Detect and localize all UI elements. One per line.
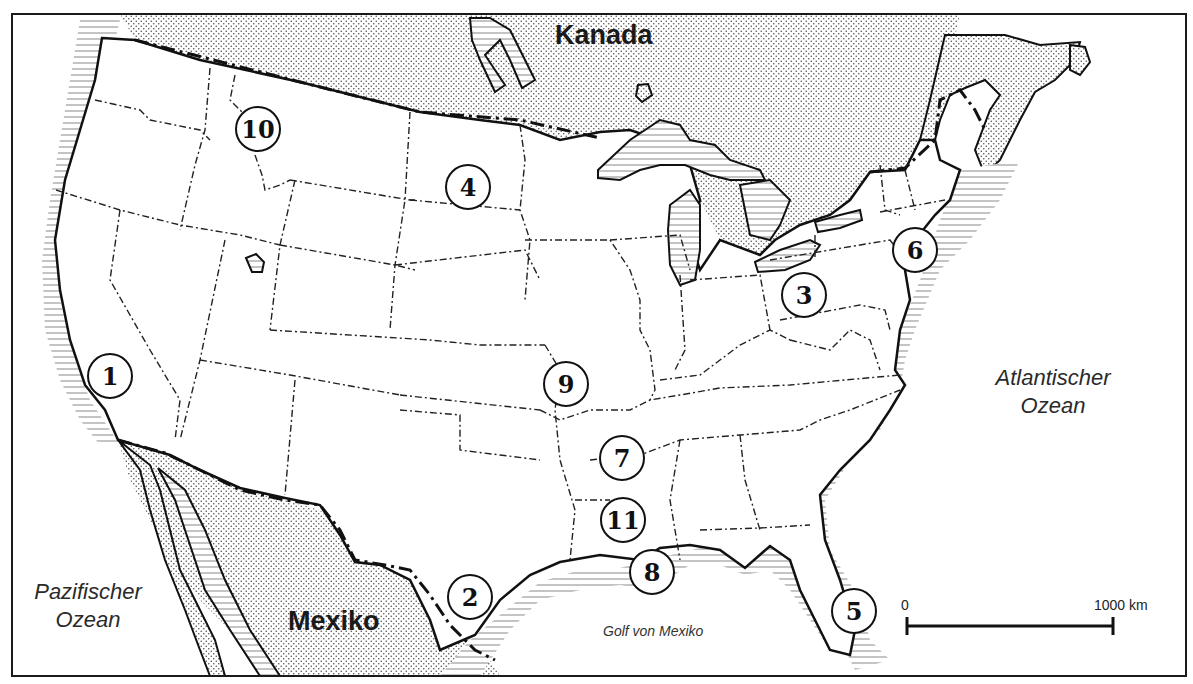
ocean-label-pacific-line1: Pazifischer [18, 578, 158, 606]
scale-end-label: 1000 km [1094, 597, 1148, 613]
marker-11: 11 [600, 497, 646, 543]
marker-9: 9 [543, 361, 589, 407]
ocean-label-atlantic: Atlantischer Ozean [968, 364, 1138, 420]
maritime-canada [920, 35, 1080, 175]
ocean-label-pacific-line2: Ozean [18, 606, 158, 634]
lake-michigan [668, 190, 700, 285]
cape-breton-island [1070, 45, 1090, 75]
country-label-mexico: Mexiko [288, 606, 380, 637]
ocean-label-pacific: Pazifischer Ozean [18, 578, 158, 634]
marker-1: 1 [87, 353, 133, 399]
marker-3: 3 [781, 272, 827, 318]
ocean-label-atlantic-line2: Ozean [968, 392, 1138, 420]
scale-start-label: 0 [901, 597, 909, 613]
marker-5: 5 [831, 588, 877, 634]
marker-6: 6 [892, 227, 938, 273]
marker-8: 8 [629, 549, 675, 595]
ocean-label-atlantic-line1: Atlantischer [968, 364, 1138, 392]
marker-4: 4 [445, 164, 491, 210]
marker-7: 7 [599, 435, 645, 481]
scale-bar [907, 617, 1113, 635]
marker-2: 2 [447, 574, 493, 620]
gulf-label: Golf von Mexiko [603, 623, 703, 639]
country-label-canada: Kanada [555, 20, 653, 51]
marker-10: 10 [235, 106, 281, 152]
map-canvas [0, 0, 1193, 684]
